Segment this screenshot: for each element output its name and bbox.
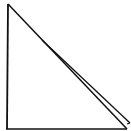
triangle-diagram <box>0 0 131 131</box>
left-side-line <box>7 4 8 129</box>
background <box>0 0 131 131</box>
